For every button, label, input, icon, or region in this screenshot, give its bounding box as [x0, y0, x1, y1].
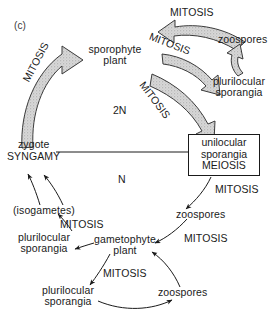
node-zoospores-top: zoospores: [218, 34, 267, 46]
life-cycle-diagram: (c) 2N N sporophyte plant zoospores plur…: [0, 0, 277, 323]
process-label-mitosis-unilocular: MITOSIS: [215, 184, 259, 196]
unilocular-box-line2: sporangia: [201, 148, 247, 160]
plurilocular-top-line2: sporangia: [215, 86, 262, 98]
node-gametophyte-plant: gametophyte plant: [91, 234, 159, 256]
plurilocular-left-line2: sporangia: [20, 242, 67, 254]
ploidy-label-haploid: N: [118, 173, 126, 185]
node-zygote: zygote: [18, 139, 50, 151]
arrow-zoospores-to-gametophyte: [155, 219, 187, 243]
node-plurilocular-sporangia-left: plurilocular sporangia: [11, 232, 77, 254]
node-isogametes: (isogametes): [13, 205, 75, 217]
process-label-mitosis-isogametes: MITOSIS: [60, 219, 104, 231]
process-label-mitosis-top: MITOSIS: [170, 7, 214, 19]
arrow-plurilocular-to-zoospores-bottom: [98, 300, 172, 308]
node-plurilocular-sporangia-top: plurilocular sporangia: [206, 76, 272, 98]
panel-label: (c): [14, 20, 26, 32]
sporophyte-plant-line2: plant: [103, 54, 126, 66]
node-zoospores-right: zoospores: [176, 209, 225, 221]
unilocular-box-line3: MEIOSIS: [202, 159, 246, 171]
node-zoospores-bottom: zoospores: [158, 287, 207, 299]
node-unilocular-sporangia-box: unilocular sporangia MEIOSIS: [188, 134, 260, 176]
ploidy-label-diploid: 2N: [113, 104, 126, 116]
node-syngamy: SYNGAMY: [7, 151, 60, 163]
arrow-plurilocular-to-zoospores-top: [227, 44, 243, 76]
node-sporophyte-plant: sporophyte plant: [82, 44, 148, 66]
gametophyte-plant-line2: plant: [113, 244, 136, 256]
arrow-zoospores-bottom-to-gametophyte: [152, 252, 180, 287]
arrow-isogamete-fusion-left: [28, 174, 40, 205]
arrow-isogamete-fusion-right: [44, 175, 63, 205]
process-label-mitosis-bottom: MITOSIS: [103, 268, 147, 280]
node-plurilocular-sporangia-bottom: plurilocular sporangia: [35, 285, 101, 307]
unilocular-box-line1: unilocular: [202, 136, 247, 148]
process-label-mitosis-zoospores-gametophyte: MITOSIS: [184, 233, 228, 245]
arrow-unilocular-to-zoospores: [186, 177, 211, 209]
plurilocular-bottom-line2: sporangia: [44, 295, 91, 307]
